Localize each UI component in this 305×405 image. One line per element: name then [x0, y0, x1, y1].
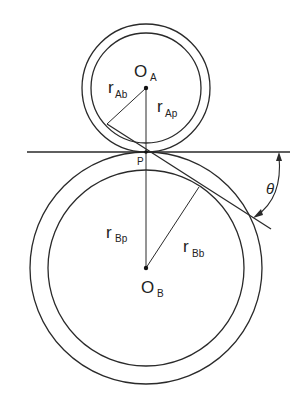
gear-b-center-label: O [141, 278, 154, 297]
gear-a-pitch-radius-sub: Ap [165, 108, 178, 119]
gear-a-center-label: O [134, 62, 147, 81]
angle-arrow-bottom-icon [253, 209, 263, 218]
pitch-point-label: P [137, 156, 144, 167]
gear-a-pitch-radius-label: r [157, 97, 163, 116]
line-of-action [107, 124, 271, 229]
gear-mesh-diagram: O A r Ab r Ap P r Bp r Bb O B θ [0, 0, 305, 405]
gear-b-pitch-radius-label: r [106, 223, 112, 242]
gear-a-center-dot [144, 86, 148, 90]
gear-b-center-sub: B [157, 288, 164, 299]
gear-b-base-radius-label: r [183, 237, 189, 256]
angle-arrow-top-icon [276, 152, 282, 161]
gear-b-pitch-radius-sub: Bp [115, 233, 128, 244]
pitch-point-dot [144, 150, 148, 154]
angle-theta-label: θ [266, 180, 274, 197]
gear-a-base-radius-sub: Ab [115, 89, 128, 100]
gear-a-center-sub: A [150, 72, 157, 83]
gear-b-base-radius-sub: Bb [192, 248, 205, 259]
gear-a-base-radius-label: r [108, 78, 114, 97]
gear-b-center-dot [144, 266, 148, 270]
